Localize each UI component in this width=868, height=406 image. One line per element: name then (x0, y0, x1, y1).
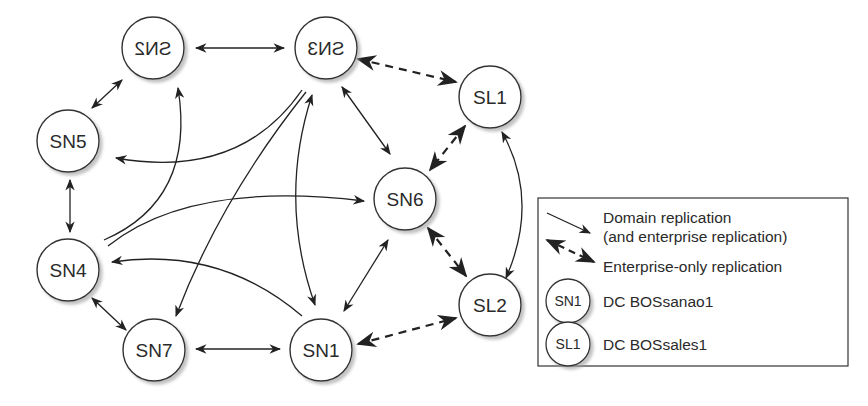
edge-sn4-sn7 (92, 298, 126, 330)
node-sn1[interactable]: SN1 (290, 319, 352, 381)
node-label: SN1 (303, 340, 340, 361)
edge-sn4-sn6 (108, 196, 364, 246)
node-label: SN4 (50, 260, 87, 281)
edge-sn3-sn7 (176, 92, 306, 316)
node-sn3[interactable]: SN3 (295, 17, 357, 79)
node-label: SN2 (135, 38, 172, 59)
node-sl1[interactable]: SL1 (459, 66, 521, 128)
legend-sn-node-icon: SN1 (546, 279, 590, 323)
legend-sl-desc: DC BOSsales1 (603, 336, 707, 353)
node-label: SN3 (308, 38, 345, 59)
legend-sl-node-label: SL1 (556, 336, 581, 352)
node-label: SN6 (387, 189, 424, 210)
legend-domain-sublabel: (and enterprise replication) (603, 228, 787, 245)
edge-sl1-sl2 (502, 132, 522, 278)
edge-sn4-sn2 (104, 88, 181, 240)
node-sn6[interactable]: SN6 (374, 168, 436, 230)
node-label: SL2 (473, 295, 507, 316)
node-label: SN7 (136, 340, 173, 361)
legend-domain-label: Domain replication (603, 209, 731, 226)
edge-sn3-sn5 (116, 90, 302, 162)
edge-sl2-sn1 (358, 318, 456, 344)
legend-sn-desc: DC BOSsanao1 (603, 293, 713, 310)
node-label: SN5 (50, 131, 87, 152)
legend: Domain replication (and enterprise repli… (538, 198, 848, 366)
node-sn5[interactable]: SN5 (37, 110, 99, 172)
edge-sn3-sn1 (296, 95, 315, 305)
legend-sl-node-icon: SL1 (546, 322, 590, 366)
node-sn4[interactable]: SN4 (37, 239, 99, 301)
legend-sn-node-label: SN1 (554, 293, 581, 309)
edge-sl1-sn6 (430, 126, 465, 170)
edge-sn2-sn5 (92, 80, 122, 108)
node-sl2[interactable]: SL2 (459, 274, 521, 336)
domain-edges (70, 48, 522, 349)
edge-sn1-sn4 (112, 259, 302, 316)
edge-sn6-sl2 (428, 228, 466, 276)
edge-sn6-sn1 (344, 240, 388, 311)
node-sn7[interactable]: SN7 (123, 319, 185, 381)
node-label: SL1 (473, 87, 507, 108)
node-sn2[interactable]: SN2 (122, 17, 184, 79)
edge-sn3-sn6 (342, 87, 390, 154)
legend-enterprise-label: Enterprise-only replication (603, 258, 782, 275)
replication-diagram: SN2 SN3 SL1 SN5 SN6 SN4 SL2 SN7 SN1 Doma… (0, 0, 868, 406)
edge-sn3-sl1 (358, 59, 456, 82)
